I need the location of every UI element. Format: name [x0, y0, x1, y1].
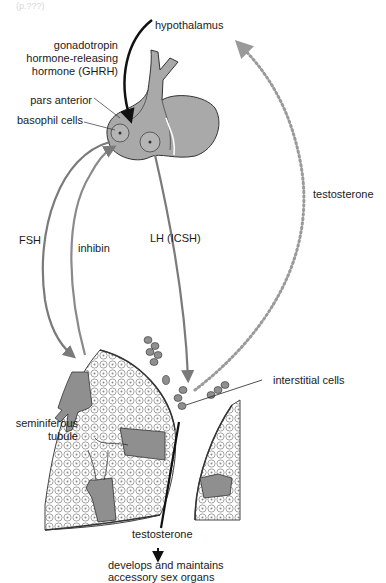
sertoli-cell — [200, 474, 232, 498]
diagram-canvas — [0, 0, 386, 583]
label-inhibin: inhibin — [78, 242, 110, 255]
label-ghrh-2: hormone-releasing — [10, 52, 118, 65]
label-testosterone-output: testosterone — [132, 528, 193, 541]
lh-arrow — [155, 155, 188, 378]
corner-note: (p.???) — [16, 0, 45, 13]
label-lh: LH (ICSH) — [150, 232, 201, 245]
label-ghrh-1: gonadotropin — [20, 39, 118, 52]
label-effect-2: accessory sex organs — [108, 571, 214, 583]
label-interstitial-cells: interstitial cells — [273, 374, 345, 387]
label-hypothalamus: hypothalamus — [155, 19, 224, 32]
label-ghrh-3: hormone (GHRH) — [10, 65, 118, 78]
pituitary-gland — [107, 50, 219, 160]
label-fsh: FSH — [19, 234, 41, 247]
seminiferous-tubule-right — [195, 400, 240, 520]
testosterone-feedback-arrow — [195, 45, 304, 390]
label-testosterone-feedback: testosterone — [313, 188, 374, 201]
label-seminiferous-2: tubule — [0, 430, 78, 443]
sertoli-cell — [120, 428, 165, 460]
label-basophil-cells: basophil cells — [0, 114, 83, 127]
pars-anterior-leader — [94, 98, 120, 118]
label-seminiferous-1: seminiferous — [0, 417, 78, 430]
label-pars-anterior: pars anterior — [10, 94, 92, 107]
